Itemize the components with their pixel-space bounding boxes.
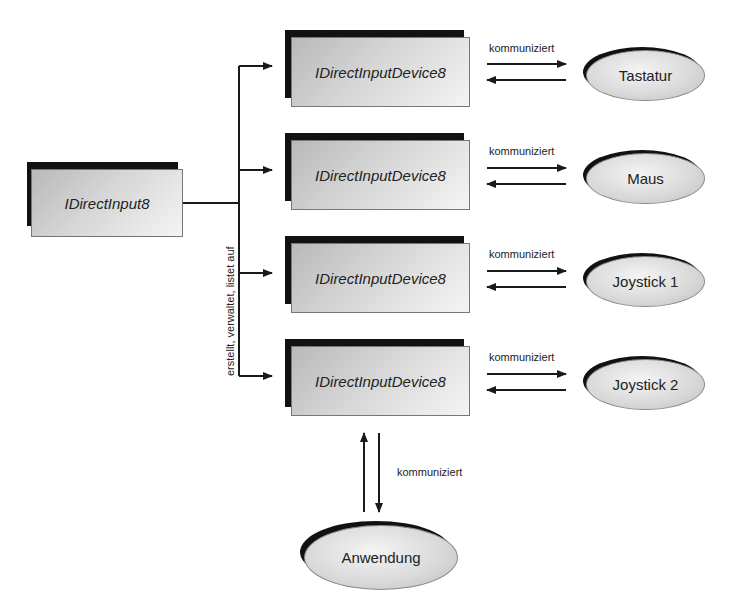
device-box-4: IDirectInputDevice8 [285, 339, 471, 417]
application-anwendung: Anwendung [300, 521, 458, 589]
link-label-1: kommuniziert [489, 42, 554, 54]
link-label-3: kommuniziert [489, 248, 554, 260]
device-box-1: IDirectInputDevice8 [285, 30, 471, 108]
target-label: Joystick 2 [586, 359, 705, 410]
target-label: Joystick 1 [586, 256, 705, 307]
target-label: Maus [586, 153, 705, 204]
link-label-4: kommuniziert [489, 351, 554, 363]
device-box-3: IDirectInputDevice8 [285, 236, 471, 314]
target-maus: Maus [583, 150, 705, 204]
target-joystick-2: Joystick 2 [583, 356, 705, 410]
device-interface-label: IDirectInputDevice8 [291, 346, 470, 416]
device-interface-label: IDirectInputDevice8 [291, 243, 470, 313]
link-label-2: kommuniziert [489, 145, 554, 157]
application-link-label: kommuniziert [397, 466, 462, 478]
target-joystick-1: Joystick 1 [583, 253, 705, 307]
device-interface-label: IDirectInputDevice8 [291, 37, 470, 107]
application-label: Anwendung [304, 525, 458, 590]
idirectinput8-box: IDirectInput8 [27, 162, 184, 238]
target-tastatur: Tastatur [583, 47, 705, 101]
idirectinput8-label: IDirectInput8 [31, 169, 183, 237]
device-box-2: IDirectInputDevice8 [285, 133, 471, 211]
relation-label: erstellt, verwaltet, listet auf [224, 246, 236, 376]
target-label: Tastatur [586, 50, 705, 101]
device-interface-label: IDirectInputDevice8 [291, 140, 470, 210]
